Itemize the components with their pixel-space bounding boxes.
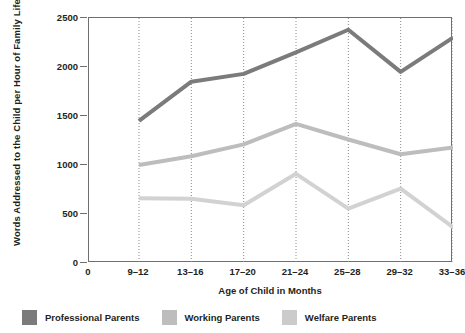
y-axis-title-text: Words Addressed to the Child per Hour of… <box>11 16 23 246</box>
y-tick-label: 1000 <box>30 159 78 170</box>
legend-color-swatch <box>162 310 177 325</box>
plot-area <box>88 17 452 262</box>
y-tick-label: 500 <box>30 208 78 219</box>
y-tick-mark <box>80 17 87 18</box>
x-tick-label: 13–16 <box>177 266 203 277</box>
legend-label: Working Parents <box>185 312 260 323</box>
legend-label: Welfare Parents <box>305 312 377 323</box>
y-tick-label: 1500 <box>30 110 78 121</box>
x-tick-label: 33–36 <box>439 266 465 277</box>
legend-color-swatch <box>282 310 297 325</box>
x-tick-label: 9–12 <box>127 266 148 277</box>
x-axis-tick-labels: 09–1213–1617–2021–2425–2829–3233–36 <box>0 266 464 282</box>
legend-item[interactable]: Welfare Parents <box>282 310 377 325</box>
y-tick-label: 2500 <box>30 12 78 23</box>
legend-label: Professional Parents <box>45 312 140 323</box>
y-axis-tick-labels: 05001000150020002500 <box>30 0 78 333</box>
y-tick-marks <box>80 0 88 333</box>
x-axis-title: Age of Child in Months <box>88 285 452 296</box>
y-axis-title: Words Addressed to the Child per Hour of… <box>0 0 34 262</box>
chart-legend: Professional ParentsWorking ParentsWelfa… <box>22 307 398 327</box>
legend-color-swatch <box>22 310 37 325</box>
x-tick-label: 21–24 <box>282 266 308 277</box>
y-tick-mark <box>80 164 87 165</box>
legend-item[interactable]: Working Parents <box>162 310 260 325</box>
x-tick-label: 17–20 <box>229 266 255 277</box>
plot-svg <box>89 18 453 263</box>
y-tick-mark <box>80 66 87 67</box>
y-tick-mark <box>80 262 87 263</box>
x-tick-label: 25–28 <box>334 266 360 277</box>
x-tick-label: 29–32 <box>386 266 412 277</box>
y-tick-mark <box>80 213 87 214</box>
y-tick-mark <box>80 115 87 116</box>
y-tick-label: 2000 <box>30 61 78 72</box>
